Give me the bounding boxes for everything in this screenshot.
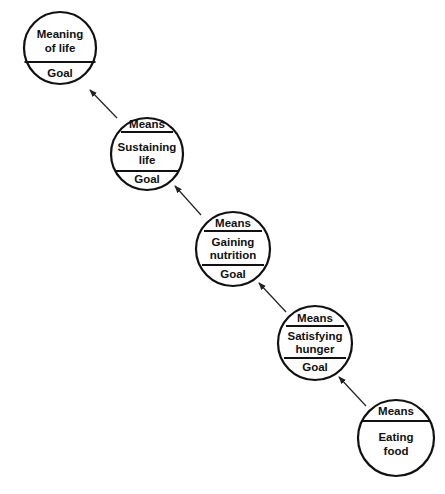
node-label-line1: Sustaining (118, 141, 177, 153)
node-satisfying-hunger: Means Satisfying hunger Goal (278, 306, 352, 380)
node-label-line1: Gaining (212, 236, 255, 248)
goal-label: Goal (47, 67, 73, 79)
node-label-line2: life (139, 154, 156, 166)
node-gaining-nutrition: Means Gaining nutrition Goal (196, 212, 270, 286)
node-label-line2: food (384, 445, 409, 457)
node-label-line2: of life (45, 42, 76, 54)
node-sustaining-life: Means Sustaining life Goal (111, 118, 183, 190)
node-label-line1: Eating (378, 431, 413, 443)
goal-label: Goal (134, 173, 160, 185)
node-meaning-of-life: Meaning of life Goal (24, 12, 96, 84)
arrow-gaining-to-sustaining (175, 186, 201, 215)
goal-label: Goal (220, 268, 246, 280)
node-label-line1: Meaning (37, 28, 84, 40)
node-label-line2: nutrition (210, 249, 257, 261)
means-label: Means (129, 118, 165, 130)
arrow-eating-to-satisfying (339, 377, 366, 406)
means-label: Means (215, 217, 251, 229)
node-label-line2: hunger (296, 343, 335, 355)
means-label: Means (378, 405, 414, 417)
node-label-line1: Satisfying (288, 330, 343, 342)
means-goal-chain-diagram: Meaning of life Goal Means Sustaining li… (0, 0, 445, 494)
arrow-satisfying-to-gaining (259, 283, 286, 312)
means-label: Means (297, 312, 333, 324)
arrow-sustaining-to-meaning (90, 90, 117, 118)
goal-label: Goal (302, 361, 328, 373)
node-eating-food: Means Eating food (358, 400, 434, 476)
